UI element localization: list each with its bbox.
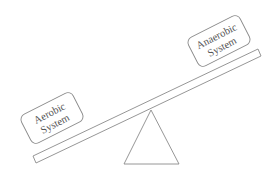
fulcrum-triangle xyxy=(124,110,179,164)
seesaw-diagram: Aerobic System Anaerobic System xyxy=(0,0,277,178)
